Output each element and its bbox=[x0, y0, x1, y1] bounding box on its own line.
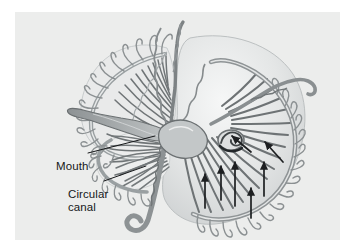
figure-root: Mouth Circularcanal bbox=[0, 0, 349, 251]
mouth-ring-group bbox=[218, 130, 244, 151]
jellyfish-illustration bbox=[15, 12, 340, 240]
label-circular-canal: Circularcanal bbox=[68, 188, 108, 213]
label-mouth: Mouth bbox=[56, 160, 88, 173]
label-circular-canal-line2: canal bbox=[68, 201, 96, 213]
illustration-panel: Mouth Circularcanal bbox=[15, 12, 340, 240]
label-circular-canal-line1: Circular bbox=[68, 188, 108, 200]
